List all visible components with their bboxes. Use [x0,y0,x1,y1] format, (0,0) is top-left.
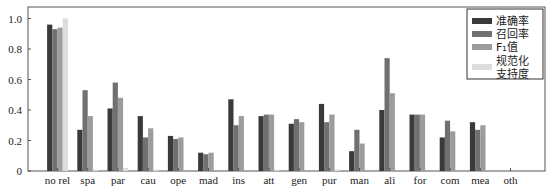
bar-group-ins [228,99,244,171]
bar-group-com [440,121,456,171]
x-tick-label: oth [503,174,518,186]
bar [203,154,208,171]
x-tick-label: mea [471,174,489,186]
bar-group-gen [289,119,305,171]
bar [420,115,425,171]
bar [354,130,359,171]
bar [299,122,304,171]
bar [52,29,57,171]
y-tick-label: 0.8 [8,43,22,55]
bar [143,137,148,171]
bar [108,108,113,171]
bar [385,58,390,171]
y-tick-label: 0.4 [8,104,22,116]
bar [319,104,324,171]
x-tick-label: ali [384,174,395,186]
bar-group-pur [319,104,340,171]
legend-label: 规范化 [496,54,529,68]
x-tick-label: ope [170,174,186,186]
bar [264,115,269,171]
bar [294,119,299,171]
x-tick-label: for [413,174,426,186]
bar [113,83,118,171]
x-tick-label: ins [232,174,245,186]
bar [360,144,365,171]
bar [274,169,279,171]
bar-chart: 00.20.40.60.81.0 no relspaparcauopemadin… [0,0,549,193]
x-tick-label: cau [140,174,156,186]
bar [234,125,239,171]
bar [168,136,173,171]
bar [83,90,88,171]
legend-swatch [472,44,492,50]
bar [239,116,244,171]
y-tick-label: 1.0 [8,13,22,25]
bar [63,19,68,172]
bar [148,128,153,171]
bar-group-par [108,83,129,171]
bar [289,124,294,171]
x-tick-label: man [350,174,369,186]
legend: 准确率召回率F₁值规范化支持度 [467,9,543,81]
bar [445,121,450,171]
bar [58,28,63,171]
bar [88,116,93,171]
bar [47,25,52,171]
bar-group-cau [138,116,159,171]
y-tick-label: 0.6 [8,74,22,86]
bar-group-for [410,115,426,171]
bar-group-att [259,115,280,171]
bar-group-ope [168,136,184,171]
bar [390,93,395,171]
bar [198,153,203,171]
x-tick-label: mad [199,174,218,186]
bar [269,115,274,171]
bar [335,169,340,171]
bar [470,122,475,171]
bar-group-mad [198,153,214,171]
bar [410,115,415,171]
bar [475,130,480,171]
y-tick-label: 0 [17,165,23,177]
legend-swatch [472,64,492,70]
bar [138,116,143,171]
bar [440,137,445,171]
legend-label: 支持度 [496,67,529,81]
bar [415,115,420,171]
legend-swatch [472,31,492,37]
bar [123,168,128,171]
legend-label: 召回率 [496,27,529,41]
x-tick-label: spa [80,174,95,186]
bar-group-ali [379,58,395,171]
bar [329,115,334,171]
legend-label: 准确率 [496,14,529,28]
bar [93,169,98,171]
bar [349,151,354,171]
bar [77,130,82,171]
bar [118,98,123,171]
x-tick-label: no rel [45,174,70,186]
bar [153,169,158,171]
x-tick-label: par [111,174,125,186]
bar [228,99,233,171]
bar [173,139,178,171]
bar-series [47,19,485,172]
x-tick-label: gen [291,174,307,186]
bar-group-spa [77,90,98,171]
y-tick-label: 0.2 [8,135,22,147]
bar-group-man [349,130,365,171]
x-tick-label: com [441,174,460,186]
bar-group-no-rel [47,19,68,172]
bar [450,131,455,171]
bar [379,110,384,171]
bar [178,137,183,171]
x-tick-label: pur [322,174,337,186]
legend-swatch [472,18,492,24]
x-tick-label: att [263,174,274,186]
bar [259,116,264,171]
legend-label: F₁值 [496,41,518,54]
bar-group-mea [470,122,486,171]
bar [209,153,214,171]
bar [324,122,329,171]
bar [480,125,485,171]
